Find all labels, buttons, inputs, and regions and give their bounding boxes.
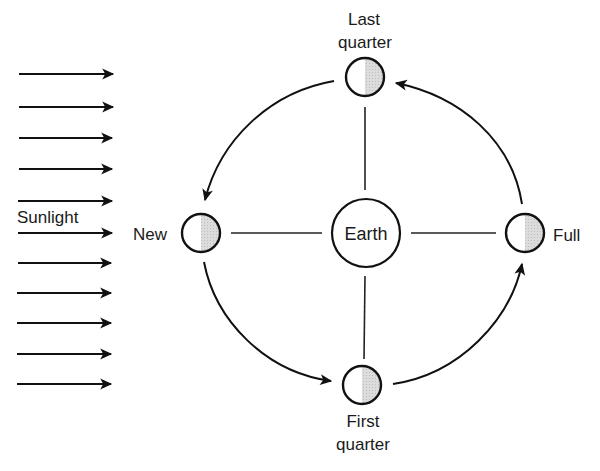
phase-label-first-line2: quarter: [336, 435, 390, 454]
phase-label-last-line2: quarter: [338, 33, 392, 52]
orbit-arrow-last-to-new: [205, 81, 334, 200]
phase-label-first-line1: First: [346, 412, 379, 431]
moon-new: [182, 214, 220, 252]
orbit-arrow-first-to-full: [393, 264, 522, 384]
phase-label-last-line1: Last: [348, 10, 380, 29]
sunlight-arrows: [17, 74, 113, 384]
orbit-arrow-full-to-last: [396, 83, 522, 204]
earth: Earth: [332, 199, 400, 267]
earth-label: Earth: [344, 224, 387, 244]
moon-full: [506, 214, 544, 252]
phase-label-new: New: [133, 225, 168, 244]
moon-last-quarter: [346, 58, 384, 96]
phase-label-full: Full: [553, 226, 580, 245]
moon-phases-diagram: Sunlight Earth Last quarter New Full Fi: [0, 0, 600, 471]
moon-first-quarter: [343, 366, 381, 404]
sunlight-label: Sunlight: [17, 208, 79, 227]
orbit-arrow-new-to-first: [204, 262, 331, 381]
